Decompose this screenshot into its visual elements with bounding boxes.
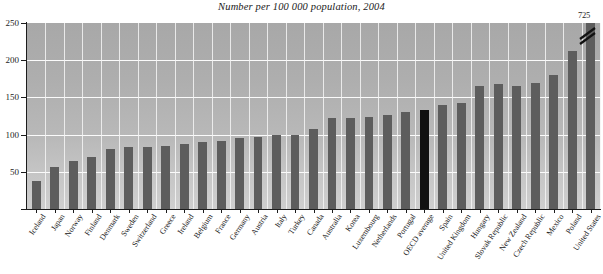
bar bbox=[568, 51, 577, 209]
gridline-v bbox=[119, 23, 120, 209]
gridline-v bbox=[267, 23, 268, 209]
gridline-v bbox=[360, 23, 361, 209]
gridline-v bbox=[249, 23, 250, 209]
gridline-v bbox=[64, 23, 65, 209]
x-tick bbox=[73, 210, 74, 213]
bar bbox=[235, 138, 244, 209]
x-tick bbox=[554, 210, 555, 213]
gridline-v bbox=[415, 23, 416, 209]
gridline-v bbox=[175, 23, 176, 209]
y-tick bbox=[21, 135, 27, 136]
bar bbox=[217, 141, 226, 209]
value-annotation-united-states: 725 bbox=[578, 10, 590, 20]
gridline-v bbox=[489, 23, 490, 209]
x-tick bbox=[129, 210, 130, 213]
bar bbox=[50, 167, 59, 209]
bar bbox=[365, 117, 374, 209]
y-tick-label: 50 bbox=[0, 168, 19, 177]
chart-title: Number per 100 000 population, 2004 bbox=[0, 1, 603, 12]
gridline-v bbox=[526, 23, 527, 209]
gridline-v bbox=[600, 23, 601, 209]
x-tick bbox=[258, 210, 259, 213]
x-tick bbox=[517, 210, 518, 213]
x-tick bbox=[314, 210, 315, 213]
bar bbox=[198, 142, 207, 209]
x-tick bbox=[350, 210, 351, 213]
gridline-v bbox=[378, 23, 379, 209]
x-tick bbox=[221, 210, 222, 213]
x-tick bbox=[277, 210, 278, 213]
bar bbox=[143, 147, 152, 209]
x-tick bbox=[36, 210, 37, 213]
bar bbox=[475, 86, 484, 209]
gridline-v bbox=[471, 23, 472, 209]
bar bbox=[531, 83, 540, 209]
bar bbox=[420, 110, 429, 209]
x-tick bbox=[480, 210, 481, 213]
y-tick-label: 250 bbox=[0, 19, 19, 28]
bar bbox=[69, 161, 78, 209]
bar bbox=[328, 118, 337, 210]
bar bbox=[383, 115, 392, 209]
x-tick bbox=[92, 210, 93, 213]
gridline-v bbox=[193, 23, 194, 209]
bar bbox=[272, 135, 281, 209]
gridline-h bbox=[27, 60, 600, 61]
bar bbox=[512, 86, 521, 210]
x-tick bbox=[166, 210, 167, 213]
bar bbox=[106, 149, 115, 209]
x-tick bbox=[147, 210, 148, 213]
gridline-v bbox=[212, 23, 213, 209]
bar bbox=[346, 118, 355, 210]
gridline-v bbox=[545, 23, 546, 209]
x-tick bbox=[406, 210, 407, 213]
y-tick-label: 100 bbox=[0, 131, 19, 140]
x-tick bbox=[184, 210, 185, 213]
y-tick bbox=[21, 60, 27, 61]
y-tick bbox=[21, 172, 27, 173]
x-tick bbox=[203, 210, 204, 213]
x-tick bbox=[240, 210, 241, 213]
gridline-v bbox=[304, 23, 305, 209]
gridline-v bbox=[582, 23, 583, 209]
y-tick-label: 150 bbox=[0, 93, 19, 102]
gridline-v bbox=[156, 23, 157, 209]
x-tick bbox=[591, 210, 592, 213]
bar bbox=[87, 157, 96, 209]
x-tick bbox=[332, 210, 333, 213]
gridline-v bbox=[323, 23, 324, 209]
x-tick bbox=[369, 210, 370, 213]
gridline-v bbox=[138, 23, 139, 209]
gridline-v bbox=[45, 23, 46, 209]
gridline-v bbox=[286, 23, 287, 209]
bar bbox=[124, 147, 133, 209]
gridline-v bbox=[82, 23, 83, 209]
plot-area bbox=[27, 23, 600, 209]
x-tick bbox=[295, 210, 296, 213]
bar bbox=[586, 23, 595, 209]
bar bbox=[291, 135, 300, 209]
gridline-v bbox=[563, 23, 564, 209]
x-tick bbox=[461, 210, 462, 213]
bar bbox=[549, 75, 558, 209]
x-tick bbox=[55, 210, 56, 213]
bar bbox=[438, 105, 447, 209]
bar bbox=[401, 112, 410, 209]
x-tick bbox=[498, 210, 499, 213]
gridline-v bbox=[230, 23, 231, 209]
bar-chart: Number per 100 000 population, 2004 5010… bbox=[0, 0, 603, 274]
bar bbox=[254, 137, 263, 209]
x-tick bbox=[387, 210, 388, 213]
gridline-v bbox=[101, 23, 102, 209]
y-tick bbox=[21, 23, 27, 24]
gridline-v bbox=[508, 23, 509, 209]
y-axis-line bbox=[26, 22, 27, 210]
gridline-v bbox=[397, 23, 398, 209]
gridline-v bbox=[452, 23, 453, 209]
x-tick bbox=[572, 210, 573, 213]
x-tick bbox=[110, 210, 111, 213]
y-tick bbox=[21, 209, 27, 210]
bar bbox=[494, 84, 503, 209]
bar bbox=[161, 146, 170, 209]
y-tick-label: 200 bbox=[0, 56, 19, 65]
